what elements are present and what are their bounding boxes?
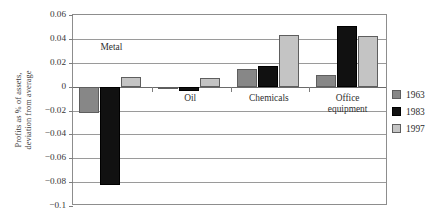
y-axis-tick-label: 0.02	[26, 57, 66, 66]
category-label: Office equipment	[316, 93, 380, 115]
bar	[200, 78, 220, 86]
bar	[79, 87, 99, 113]
bar	[358, 36, 378, 86]
y-axis-tick	[69, 158, 73, 159]
legend-label: 1983	[406, 107, 425, 117]
y-axis-tick-label: 0.04	[26, 33, 66, 42]
bar-chart: Profits as % of assets, deviation from a…	[0, 0, 441, 221]
legend-label: 1997	[406, 124, 425, 134]
legend-swatch-icon	[392, 107, 401, 116]
legend-item[interactable]: 1983	[392, 103, 441, 120]
y-axis-tick	[69, 15, 73, 16]
bar	[316, 75, 336, 87]
y-axis-tick-label: −0.1	[26, 201, 66, 210]
y-axis-tick-label: −0.04	[26, 129, 66, 138]
legend-swatch-icon	[392, 90, 401, 99]
x-axis-tick	[231, 87, 232, 92]
bar	[237, 69, 257, 87]
bar	[279, 35, 299, 86]
bar	[258, 66, 278, 86]
bar	[337, 26, 357, 87]
x-axis-tick	[309, 87, 310, 92]
bar	[179, 87, 199, 92]
y-axis-tick-label: −0.08	[26, 177, 66, 186]
y-axis-tick	[69, 111, 73, 112]
y-axis-tick	[69, 182, 73, 183]
y-axis-tick	[69, 87, 73, 88]
bar	[121, 77, 141, 87]
y-axis-tick-label: −0.06	[26, 153, 66, 162]
legend-swatch-icon	[392, 124, 401, 133]
x-axis-tick	[152, 87, 153, 92]
y-axis-tick	[69, 39, 73, 40]
chart-legend: 196319831997	[392, 86, 441, 137]
bar	[100, 87, 120, 185]
category-label: Chemicals	[239, 93, 299, 104]
y-axis-tick-labels: 0.060.040.020−0.02−0.04−0.06−0.08−0.1	[26, 10, 66, 206]
y-axis-tick	[69, 63, 73, 64]
category-label: Oil	[166, 93, 214, 104]
y-axis-tick	[69, 206, 73, 207]
category-label: Metal	[87, 42, 135, 53]
legend-item[interactable]: 1997	[392, 120, 441, 137]
y-axis-tick-label: −0.02	[26, 105, 66, 114]
y-axis-tick-label: 0.06	[26, 10, 66, 19]
y-axis-tick	[69, 134, 73, 135]
legend-item[interactable]: 1963	[392, 86, 441, 103]
bar	[158, 87, 178, 89]
legend-label: 1963	[406, 90, 425, 100]
y-axis-tick-label: 0	[26, 81, 66, 90]
